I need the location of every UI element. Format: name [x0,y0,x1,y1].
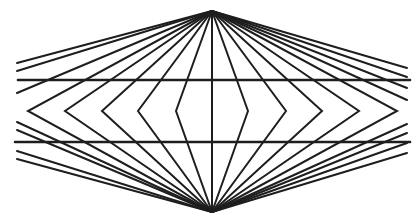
chevron-line [212,11,248,212]
fan-ray [212,124,407,212]
fan-ray [212,11,407,100]
fan-ray [212,153,407,212]
chevron-line [28,11,212,212]
fan-ray [212,11,407,77]
fan-ray [212,11,407,68]
chevron-line [176,11,212,212]
ray-group [17,11,407,212]
fan-ray [212,143,407,212]
fan-ray [17,11,212,71]
fan-ray [17,151,212,212]
illusion-figure [0,0,415,222]
chevron-line [212,11,397,212]
